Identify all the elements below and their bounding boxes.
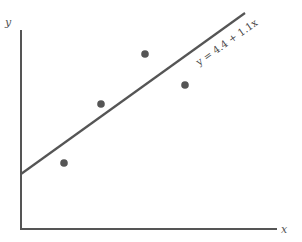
regression-line [21,13,245,174]
data-point [60,159,68,167]
x-axis-label: x [281,223,288,236]
y-axis-label: y [4,16,12,29]
data-point [97,100,105,108]
data-point [181,81,189,89]
scatter-chart: y x y = 4.4 + 1.1x [0,0,302,242]
data-point [141,50,149,58]
